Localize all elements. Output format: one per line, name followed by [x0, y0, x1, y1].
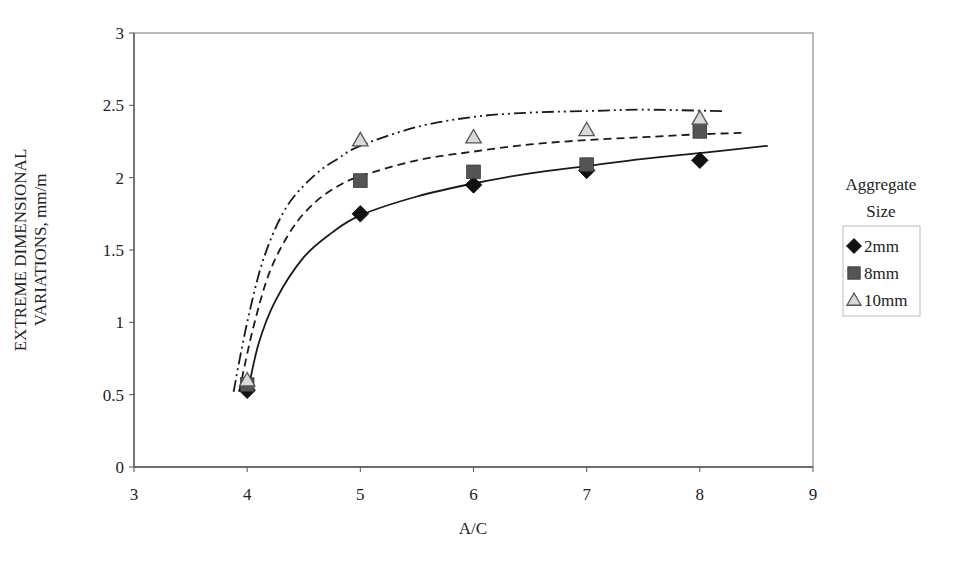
marker-8mm-point [693, 125, 707, 139]
legend-label: 10mm [864, 291, 907, 310]
legend-label: 8mm [864, 264, 899, 283]
legend-title-line: Aggregate [846, 175, 917, 194]
legend-item-2mm: 2mm [847, 237, 899, 256]
marker-8mm-point [580, 158, 594, 172]
chart: 00.511.522.53 3456789 EXTREME DIMENSIONA… [0, 0, 966, 562]
chart-canvas: 00.511.522.53 3456789 EXTREME DIMENSIONA… [0, 0, 966, 562]
legend-title: AggregateSize [846, 175, 917, 221]
x-tick-label: 7 [582, 485, 591, 504]
legend-marker-icon [848, 267, 860, 279]
x-tick-label: 8 [696, 485, 705, 504]
marker-8mm-point [467, 165, 481, 179]
y-tick-label: 3 [116, 24, 125, 43]
y-tick-label: 2 [116, 169, 125, 188]
y-tick-label: 1.5 [103, 241, 124, 260]
y-tick-label: 1 [116, 313, 125, 332]
x-tick-label: 9 [809, 485, 818, 504]
x-tick-label: 3 [130, 485, 139, 504]
plot-border [134, 33, 813, 467]
y-axis-title: EXTREME DIMENSIONALVARIATIONS, mm/m [11, 149, 50, 352]
legend-title-line: Size [866, 202, 895, 221]
x-axis: 3456789 [130, 467, 818, 504]
y-tick-label: 0.5 [103, 386, 124, 405]
x-tick-label: 4 [243, 485, 252, 504]
y-tick-label: 0 [116, 458, 125, 477]
x-axis-title: A/C [459, 519, 487, 538]
y-tick-label: 2.5 [103, 96, 124, 115]
x-tick-label: 5 [356, 485, 365, 504]
legend: 2mm8mm10mm [843, 226, 920, 316]
legend-label: 2mm [864, 237, 899, 256]
x-tick-label: 6 [469, 485, 478, 504]
plot-area [134, 33, 813, 467]
y-axis-title-line: VARIATIONS, mm/m [31, 174, 50, 327]
y-axis: 00.511.522.53 [103, 24, 134, 477]
marker-8mm-point [354, 174, 368, 188]
y-axis-title-line: EXTREME DIMENSIONAL [11, 149, 30, 352]
